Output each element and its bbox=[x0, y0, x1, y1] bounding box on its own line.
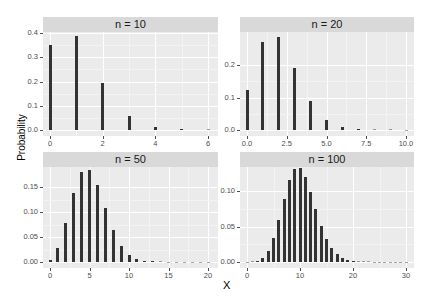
x-tick-label: 5.0 bbox=[312, 139, 342, 148]
y-tick-label: 0.2 bbox=[205, 60, 235, 69]
gridline-y bbox=[240, 130, 414, 131]
bar bbox=[49, 260, 52, 263]
y-tick-mark bbox=[40, 130, 43, 131]
bar bbox=[112, 230, 115, 262]
x-tick-label: 5 bbox=[75, 271, 105, 280]
y-tick-mark bbox=[40, 106, 43, 107]
gridline-y bbox=[43, 57, 218, 58]
gridline-x bbox=[247, 167, 248, 268]
bar bbox=[159, 261, 162, 262]
gridline-y bbox=[43, 82, 218, 83]
bar bbox=[341, 258, 344, 262]
x-tick-label: 0 bbox=[35, 271, 65, 280]
gridline-x-minor bbox=[149, 167, 150, 268]
x-tick-label: 10 bbox=[285, 271, 315, 280]
bar bbox=[272, 238, 275, 262]
bar bbox=[352, 261, 355, 262]
gridline-y bbox=[240, 98, 414, 99]
plot-area bbox=[43, 32, 218, 136]
y-tick-mark bbox=[40, 212, 43, 213]
gridline-y bbox=[43, 212, 218, 213]
bar bbox=[72, 193, 75, 263]
y-tick-label: 0.4 bbox=[8, 28, 38, 37]
bar bbox=[367, 261, 370, 262]
gridline-y bbox=[240, 65, 414, 66]
x-axis-title: X bbox=[223, 279, 230, 291]
gridline-y bbox=[43, 130, 218, 131]
gridline-x-minor bbox=[182, 32, 183, 136]
x-tick-label: 15 bbox=[154, 271, 184, 280]
bar bbox=[101, 83, 104, 130]
x-tick-label: 10 bbox=[114, 271, 144, 280]
bar bbox=[357, 261, 360, 262]
bar bbox=[80, 172, 83, 263]
plot-area bbox=[43, 167, 218, 268]
panel-strip-title: n = 50 bbox=[43, 152, 218, 167]
gridline-x-minor bbox=[346, 32, 347, 136]
gridline-y bbox=[43, 106, 218, 107]
bar bbox=[104, 208, 107, 262]
bar bbox=[293, 169, 296, 262]
y-tick-label: 0.15 bbox=[8, 182, 38, 191]
y-tick-mark bbox=[237, 65, 240, 66]
bar bbox=[49, 45, 52, 130]
y-tick-label: 0.05 bbox=[8, 232, 38, 241]
bar bbox=[96, 185, 99, 262]
gridline-y-minor bbox=[43, 94, 218, 95]
y-tick-label: 0.10 bbox=[205, 186, 235, 195]
bar bbox=[256, 261, 259, 262]
bar bbox=[304, 177, 307, 262]
bar bbox=[143, 261, 146, 262]
bar bbox=[346, 260, 349, 262]
bar bbox=[251, 261, 254, 262]
bar bbox=[154, 127, 157, 130]
gridline-y-minor bbox=[43, 250, 218, 251]
gridline-x-minor bbox=[307, 32, 308, 136]
bar bbox=[320, 226, 323, 262]
y-tick-label: 0.1 bbox=[205, 93, 235, 102]
bar bbox=[325, 120, 328, 130]
gridline-x-minor bbox=[386, 32, 387, 136]
gridline-y-minor bbox=[43, 45, 218, 46]
y-tick-mark bbox=[237, 130, 240, 131]
bar bbox=[261, 258, 264, 262]
gridline-x bbox=[50, 167, 51, 268]
bar bbox=[151, 261, 154, 262]
bar bbox=[128, 255, 131, 263]
bar bbox=[135, 259, 138, 262]
bar bbox=[277, 37, 280, 130]
panel-strip-title: n = 20 bbox=[240, 17, 414, 32]
gridline-x-minor bbox=[380, 167, 381, 268]
bar bbox=[267, 251, 270, 262]
gridline-x-minor bbox=[70, 167, 71, 268]
gridline-y-minor bbox=[43, 225, 218, 226]
y-tick-label: 0.10 bbox=[8, 207, 38, 216]
gridline-y-minor bbox=[43, 200, 218, 201]
y-tick-mark bbox=[237, 191, 240, 192]
gridline-y bbox=[43, 33, 218, 34]
y-tick-mark bbox=[40, 33, 43, 34]
y-tick-mark bbox=[40, 82, 43, 83]
x-tick-label: 0 bbox=[232, 271, 262, 280]
y-tick-label: 0.0 bbox=[205, 125, 235, 134]
bar bbox=[357, 129, 360, 130]
bar bbox=[277, 220, 280, 262]
gridline-y-minor bbox=[43, 69, 218, 70]
gridline-x bbox=[353, 167, 354, 268]
bar bbox=[309, 101, 312, 130]
bar bbox=[88, 170, 91, 263]
x-tick-label: 10.0 bbox=[391, 139, 421, 148]
bar bbox=[341, 127, 344, 130]
bar bbox=[246, 90, 249, 130]
bar bbox=[261, 42, 264, 130]
y-tick-mark bbox=[40, 57, 43, 58]
x-tick-label: 7.5 bbox=[351, 139, 381, 148]
x-tick-label: 4 bbox=[140, 139, 170, 148]
bar bbox=[373, 129, 376, 130]
bar bbox=[336, 254, 339, 262]
gridline-y-minor bbox=[43, 118, 218, 119]
gridline-x bbox=[406, 167, 407, 268]
y-tick-mark bbox=[40, 237, 43, 238]
bar bbox=[288, 180, 291, 262]
gridline-y-minor bbox=[240, 209, 414, 210]
